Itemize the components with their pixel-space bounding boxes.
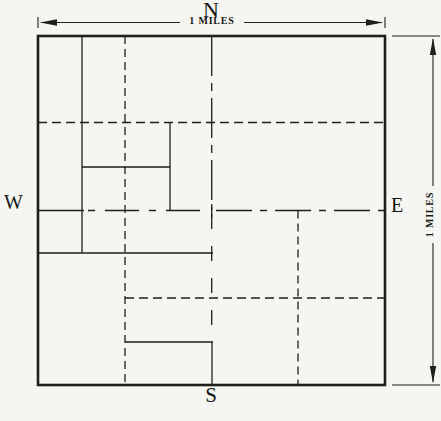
diagram-canvas [0, 0, 441, 421]
down-arrowhead-icon [430, 366, 436, 383]
right-arrowhead-icon [366, 19, 383, 26]
up-arrowhead-icon [430, 38, 436, 55]
survey-section-diagram: N S W E 1 MILES 1 MILES [0, 0, 441, 421]
compass-east-label: E [391, 195, 403, 215]
compass-west-label: W [4, 192, 23, 212]
quarter-section-center-lines [88, 36, 385, 340]
compass-south-label: S [191, 385, 231, 406]
top-scale-label: 1 MILES [168, 16, 256, 26]
left-arrowhead-icon [40, 19, 57, 26]
right-scale-label: 1 MILES [425, 171, 438, 259]
